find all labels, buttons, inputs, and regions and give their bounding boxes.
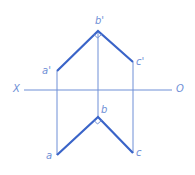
- label-b-prime: b': [95, 16, 104, 26]
- label-c-prime: c': [136, 57, 144, 67]
- front-view-angle: [57, 31, 133, 71]
- top-view-angle: [57, 117, 133, 155]
- label-c: c: [136, 148, 142, 158]
- axis-label-o: O: [176, 84, 184, 94]
- label-a-prime: a': [42, 66, 51, 76]
- label-b: b: [101, 105, 107, 115]
- axis-label-x: X: [13, 84, 20, 94]
- diagram-lines: [0, 0, 195, 175]
- projection-diagram: X O a' b' c' a b c: [0, 0, 195, 175]
- right-angle-mark-top: [94, 121, 102, 125]
- label-a: a: [46, 151, 52, 161]
